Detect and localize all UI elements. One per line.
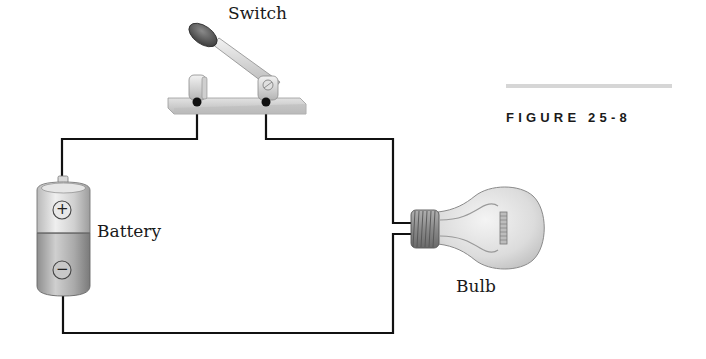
figure-rule [506, 84, 672, 88]
battery-label: Battery [97, 221, 161, 241]
battery [37, 176, 90, 296]
bulb-label: Bulb [456, 276, 496, 296]
wire-switch-to-bulb [266, 102, 412, 223]
negative-symbol: − [56, 260, 68, 278]
switch-terminal-right [262, 98, 271, 107]
light-bulb [411, 187, 544, 269]
figure-title: FIGURE 25-8 [506, 110, 631, 125]
switch-label: Switch [228, 3, 287, 23]
circuit-diagram: + − Switch Battery Bulb FIGURE 25-8 [0, 0, 706, 359]
positive-symbol: + [56, 200, 68, 218]
wire-bulb-to-battery [63, 234, 412, 333]
bulb-globe [438, 187, 544, 269]
wires [62, 102, 412, 333]
knife-switch [168, 18, 306, 114]
switch-terminal-left [193, 98, 202, 107]
